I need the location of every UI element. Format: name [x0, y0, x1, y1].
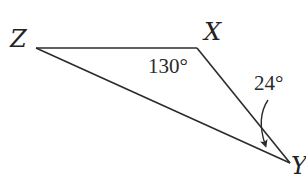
angle-label-y: 24°	[254, 71, 283, 95]
triangle-diagram: Z X Y 130° 24°	[0, 0, 306, 196]
vertex-label-x: X	[202, 18, 222, 46]
vertex-label-y: Y	[291, 152, 306, 180]
angle-label-x: 130°	[148, 54, 188, 78]
vertex-label-z: Z	[9, 25, 28, 53]
angle-pointer-arrow-icon	[261, 100, 268, 144]
diagram-svg: Z X Y 130° 24°	[0, 0, 306, 196]
side-xy	[197, 48, 290, 163]
